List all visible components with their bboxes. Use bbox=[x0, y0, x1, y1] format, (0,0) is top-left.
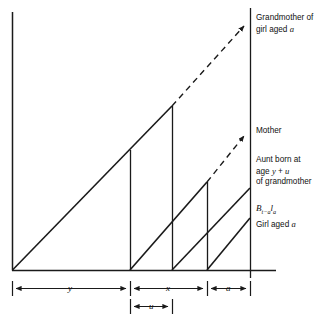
cohort-line-mother-dashed bbox=[207, 136, 244, 182]
label-grandmother-var: a bbox=[290, 24, 294, 34]
label-aunt-plus: + bbox=[276, 167, 285, 176]
label-mother-text: Mother bbox=[256, 126, 281, 135]
label-girl: Girl aged a bbox=[256, 219, 296, 231]
dimension-label-y: y bbox=[68, 283, 72, 293]
lexis-diagram-figure: Grandmother of girl aged a Mother Aunt b… bbox=[0, 0, 333, 318]
dimension-label-u: u bbox=[149, 301, 154, 311]
formula-sub-t-minus-a: t−a bbox=[262, 208, 271, 215]
label-girl-pre: Girl aged bbox=[256, 220, 292, 229]
label-mother: Mother bbox=[256, 126, 281, 137]
label-girl-var: a bbox=[292, 219, 296, 229]
formula-sub-a: a bbox=[273, 208, 276, 215]
label-aunt-line2-pre: age bbox=[256, 167, 272, 176]
cohort-line-aunt bbox=[172, 188, 250, 270]
cohort-line-grandmother-dashed bbox=[172, 26, 244, 106]
label-grandmother-line1: Grandmother of bbox=[256, 13, 313, 22]
dimension-label-x: x bbox=[166, 283, 170, 293]
label-grandmother-line2-pre: girl aged bbox=[256, 25, 290, 34]
label-aunt-line1: Aunt born at bbox=[256, 155, 301, 164]
label-aunt-line3: of grandmother bbox=[256, 177, 312, 186]
cohort-line-mother bbox=[130, 182, 207, 270]
label-aunt: Aunt born at age y + u of grandmother bbox=[256, 155, 312, 188]
cohort-line-grandmother bbox=[13, 106, 173, 270]
label-grandmother: Grandmother of girl aged a bbox=[256, 13, 313, 35]
label-births-formula: Bt−ala bbox=[256, 203, 276, 215]
label-aunt-var-u: u bbox=[285, 166, 289, 176]
dimension-label-a: a bbox=[226, 283, 231, 293]
